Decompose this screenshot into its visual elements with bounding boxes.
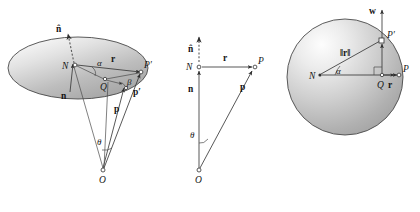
label-pprime-left: p′ (133, 87, 141, 97)
label-Pprime-left: P′ (143, 60, 153, 70)
label-Q-left: Q (100, 82, 107, 92)
node-O-left (101, 168, 105, 172)
node-N-right (318, 73, 321, 76)
label-alpha-left: α (97, 58, 102, 68)
node-P-middle (253, 65, 257, 69)
label-O-middle: O (195, 175, 202, 185)
node-Q-left (103, 77, 106, 80)
geometry-figure: n̂ N n α β θ r P′ p′ p Q O (0, 0, 420, 212)
label-n-hat-middle: n̂ (188, 44, 194, 54)
label-n-hat-left: n̂ (56, 24, 62, 34)
label-p-bold-middle: p (240, 82, 245, 92)
label-r-norm-right: ‖r‖ (340, 48, 350, 58)
label-n-bold-middle: n (188, 84, 194, 94)
label-P-right: P (402, 64, 409, 74)
figure-root: n̂ N n α β θ r P′ p′ p Q O (0, 0, 420, 212)
label-theta-middle: θ (190, 130, 195, 140)
label-n-bold-left: n (61, 91, 67, 101)
node-P-right (397, 73, 401, 77)
label-beta-left: β (126, 77, 132, 87)
node-Pprime-right (379, 38, 384, 43)
label-alpha-right: α (336, 66, 341, 76)
right-panel-group: w P′ ‖r‖ N α Q r P (287, 6, 409, 135)
label-N-middle: N (185, 62, 193, 72)
label-Pprime-right: P′ (386, 30, 396, 40)
node-O-middle (197, 168, 201, 172)
label-O-left: O (99, 175, 106, 185)
left-panel-group: n̂ N n α β θ r P′ p′ p Q O (8, 24, 153, 185)
label-N-right: N (308, 71, 316, 81)
label-Q-right: Q (377, 80, 384, 90)
label-p-bold-left: p (114, 104, 119, 114)
label-r-middle: r (223, 53, 228, 63)
node-N-left (73, 63, 77, 67)
label-P-middle: P (257, 56, 264, 66)
node-Q-right (380, 73, 383, 76)
node-Pprime-left (139, 70, 143, 74)
label-N-left: N (61, 61, 69, 71)
middle-panel-group: n̂ N r P n p θ O (185, 37, 264, 185)
sphere-surface (287, 19, 403, 135)
angle-arc-theta-middle (199, 139, 208, 143)
node-N-middle (197, 65, 201, 69)
label-w-right: w (369, 6, 376, 16)
label-theta-left: θ (97, 137, 102, 147)
